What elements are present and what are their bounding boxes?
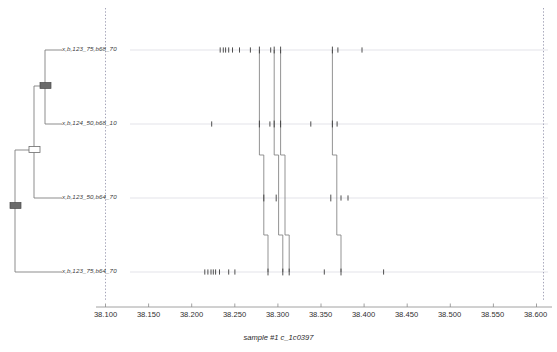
x-tick-label-4: 38.300 xyxy=(257,310,298,320)
figure-caption: sample #1 c_1c0397 xyxy=(0,333,557,342)
x-axis xyxy=(96,304,552,308)
leaf-label-2[interactable]: x,b,123_50,b64_70 xyxy=(62,193,117,201)
leaf-label-0[interactable]: x,b,123_75,b68_70 xyxy=(62,45,117,53)
leaf-label-1[interactable]: x,b,124_50,b68_10 xyxy=(62,119,117,127)
x-tick-label-10: 38.600 xyxy=(515,310,556,320)
x-tick-label-0: 38.100 xyxy=(85,310,126,320)
connector-a xyxy=(259,50,268,272)
track-baselines xyxy=(130,50,548,272)
x-tick-label-6: 38.400 xyxy=(343,310,384,320)
x-tick-label-2: 38.200 xyxy=(171,310,212,320)
connector-b xyxy=(274,50,283,272)
x-tick-label-8: 38.500 xyxy=(429,310,470,320)
x-tick-label-9: 38.550 xyxy=(472,310,513,320)
node-merge-top[interactable] xyxy=(40,83,51,89)
x-tick-label-3: 38.250 xyxy=(214,310,255,320)
alignment-connectors xyxy=(259,50,341,272)
node-merge-mid[interactable] xyxy=(29,147,40,153)
x-tick-label-1: 38.150 xyxy=(128,310,169,320)
x-axis-ticks xyxy=(106,304,537,308)
x-tick-label-7: 38.450 xyxy=(386,310,427,320)
connector-c xyxy=(281,50,290,272)
connector-d xyxy=(332,50,341,272)
peak-marks xyxy=(205,47,384,276)
dendrogram-tree xyxy=(15,50,62,272)
leaf-label-3[interactable]: x,b,123_75,b64_70 xyxy=(62,267,117,275)
node-merge-root[interactable] xyxy=(10,203,21,209)
reference-lines xyxy=(106,8,544,300)
figure-root: x,b,123_75,b68_70 x,b,124_50,b68_10 x,b,… xyxy=(0,0,557,352)
x-tick-label-5: 38.350 xyxy=(300,310,341,320)
